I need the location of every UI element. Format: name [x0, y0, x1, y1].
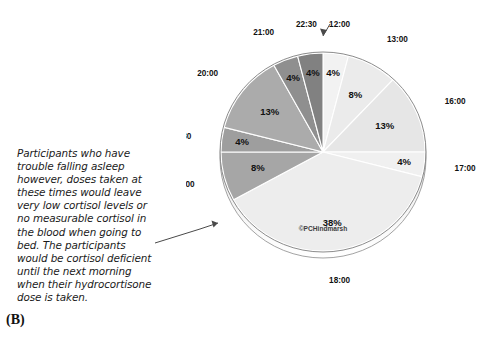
- annotation-line: no measurable cortisol in: [17, 212, 183, 225]
- pie-category-label: 19:30: [186, 132, 192, 141]
- panel-label: (B): [6, 312, 25, 328]
- pie-category-label: 22:30: [296, 20, 317, 29]
- annotation-line: however, doses taken at: [17, 173, 183, 186]
- pie-chart-svg: 4%8%13%4%38%8%4%13%4%4% 12:0013:0016:001…: [186, 0, 487, 320]
- pie-slice-value-label: 13%: [260, 106, 280, 117]
- pie-category-label: 21:00: [253, 28, 274, 37]
- pie-chart: 4%8%13%4%38%8%4%13%4%4% 12:0013:0016:001…: [186, 0, 487, 320]
- annotation-line: the blood when going to: [17, 226, 183, 239]
- pie-category-label: 19:00: [186, 180, 195, 189]
- pie-slice-value-label: 4%: [397, 156, 411, 167]
- annotation-line: these times would leave: [17, 186, 183, 199]
- annotation-line: very low cortisol levels or: [17, 199, 183, 212]
- pie-category-label: 17:00: [455, 164, 476, 173]
- pie-category-label: 16:00: [445, 97, 466, 106]
- pie-slice-value-label: 4%: [306, 67, 320, 78]
- figure-panel: Participants who have trouble falling as…: [0, 0, 487, 337]
- annotation-line: trouble falling asleep: [17, 160, 183, 173]
- pie-slice-value-label: 4%: [286, 72, 300, 83]
- pie-slice-value-label: 8%: [251, 162, 265, 173]
- watermark-label: ©PCHindmarsh: [299, 225, 347, 232]
- pie-category-label: 20:00: [197, 69, 218, 78]
- annotation-line: bed. The participants: [17, 239, 183, 252]
- annotation-line: would be cortisol deficient: [17, 252, 183, 265]
- pie-slice-value-label: 13%: [375, 120, 395, 131]
- pie-slice-value-label: 4%: [326, 67, 340, 78]
- pie-category-label: 18:00: [329, 276, 350, 285]
- pie-slice-value-label: 8%: [349, 89, 363, 100]
- pie-category-label: 13:00: [387, 35, 408, 44]
- pie-slice-value-label: 4%: [235, 136, 249, 147]
- annotation-line: when their hydrocortisone: [17, 278, 183, 291]
- annotation-line: dose is taken.: [17, 291, 183, 304]
- annotation-text-block: Participants who have trouble falling as…: [17, 147, 183, 304]
- annotation-line: Participants who have: [17, 147, 183, 160]
- annotation-line: until the next morning: [17, 265, 183, 278]
- pie-category-label: 12:00: [329, 20, 350, 29]
